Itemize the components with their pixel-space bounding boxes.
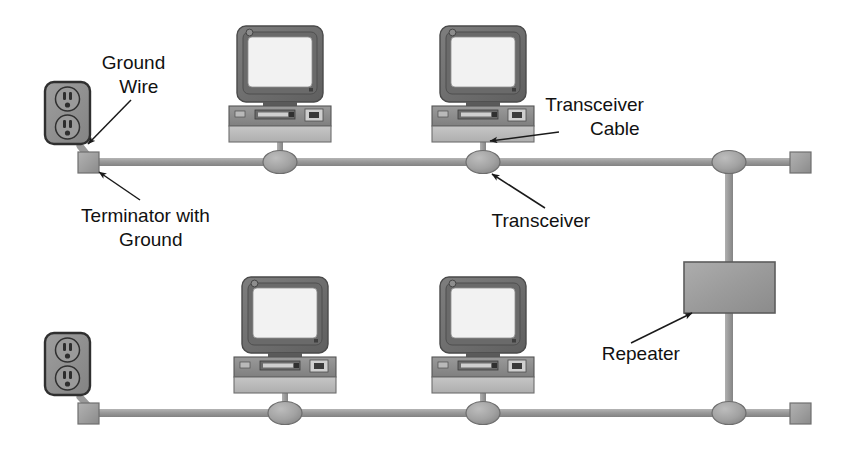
bottom-transceiver-1[interactable] bbox=[268, 402, 302, 425]
diagram-canvas: Ground Wire Terminator with Ground Trans… bbox=[0, 0, 858, 453]
computer-top-1[interactable] bbox=[229, 26, 331, 142]
computer-bottom-2[interactable] bbox=[432, 277, 534, 393]
label-transceiver: Transceiver bbox=[492, 210, 617, 231]
label-transceiver-cable-line-1: Transceiver bbox=[545, 94, 644, 115]
bottom-transceiver-2[interactable] bbox=[466, 402, 500, 425]
ground-wire-leader-arrow bbox=[88, 100, 131, 144]
top-transceiver-1[interactable] bbox=[263, 151, 297, 174]
computer-bottom-1[interactable] bbox=[234, 277, 336, 393]
label-terminator-with-ground-line-1: Terminator with bbox=[81, 205, 210, 226]
label-repeater-line-1: Repeater bbox=[602, 343, 681, 364]
outlet-top bbox=[45, 82, 90, 144]
bottom-bus-cable bbox=[88, 409, 800, 417]
label-repeater: Repeater bbox=[602, 343, 707, 364]
terminator-ground-leader-arrow bbox=[99, 172, 140, 200]
network-diagram: Ground Wire Terminator with Ground Trans… bbox=[0, 0, 858, 453]
top-transceiver-repeater[interactable] bbox=[712, 151, 746, 174]
repeater-box[interactable] bbox=[684, 262, 775, 313]
bottom-left-terminator[interactable] bbox=[78, 403, 99, 424]
computer-top-2[interactable] bbox=[432, 26, 534, 142]
label-transceiver-cable-line-2: Cable bbox=[590, 118, 640, 139]
repeater-leader-arrow bbox=[631, 313, 692, 343]
top-right-terminator[interactable] bbox=[790, 152, 811, 173]
label-ground-wire-line-2: Wire bbox=[119, 76, 158, 97]
outlet-bottom bbox=[45, 333, 90, 395]
top-bus-cable bbox=[88, 158, 800, 166]
top-transceiver-2[interactable] bbox=[466, 151, 500, 174]
bottom-transceiver-repeater[interactable] bbox=[712, 402, 746, 425]
label-ground-wire-line-1: Ground bbox=[102, 52, 165, 73]
top-left-terminator[interactable] bbox=[78, 152, 99, 173]
label-transceiver-cable: Transceiver Cable bbox=[545, 94, 681, 139]
label-transceiver-line-1: Transceiver bbox=[492, 210, 591, 231]
label-ground-wire: Ground Wire bbox=[102, 52, 202, 97]
bottom-right-terminator[interactable] bbox=[790, 403, 811, 424]
label-terminator-with-ground: Terminator with Ground bbox=[81, 205, 247, 250]
label-terminator-with-ground-line-2: Ground bbox=[119, 229, 182, 250]
transceiver-leader-arrow bbox=[492, 174, 545, 208]
